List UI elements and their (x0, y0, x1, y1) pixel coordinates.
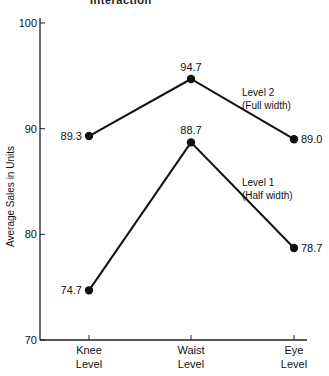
data-point-marker (187, 138, 195, 146)
series-label: Level 1 (242, 177, 275, 188)
x-tick-label: Knee (76, 344, 102, 356)
y-tick-label: 100 (19, 17, 37, 29)
y-tick-label: 80 (25, 228, 37, 240)
x-tick-label: Eye (285, 344, 304, 356)
x-tick-label: Level (281, 358, 307, 370)
series-label: (Half width) (242, 190, 293, 201)
data-value-label: 74.7 (61, 284, 82, 296)
x-tick-label: Waist (177, 344, 204, 356)
data-value-label: 94.7 (180, 61, 201, 73)
data-value-label: 89.0 (301, 133, 322, 145)
data-point-marker (85, 286, 93, 294)
data-value-label: 78.7 (301, 242, 322, 254)
series-label: Level 2 (242, 87, 275, 98)
data-value-label: 88.7 (180, 124, 201, 136)
y-axis-label: Average Sales in Units (5, 146, 16, 247)
line-chart: 708090100Average Sales in UnitsKneeLevel… (0, 0, 329, 376)
data-value-label: 89.3 (61, 130, 82, 142)
x-tick-label: Level (178, 358, 204, 370)
data-point-marker (290, 244, 298, 252)
y-tick-label: 70 (25, 334, 37, 346)
data-point-marker (85, 132, 93, 140)
data-point-marker (290, 135, 298, 143)
series-line (89, 142, 294, 290)
x-tick-label: Level (76, 358, 102, 370)
data-point-marker (187, 75, 195, 83)
y-tick-label: 90 (25, 123, 37, 135)
series-label: (Full width) (242, 100, 291, 111)
